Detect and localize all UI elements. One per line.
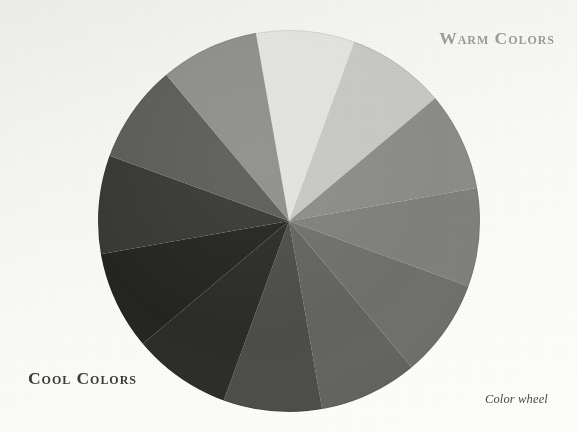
- figure-caption: Color wheel: [485, 392, 548, 407]
- color-wheel-figure: Warm Colors Cool Colors Color wheel: [0, 0, 577, 432]
- cool-colors-label: Cool Colors: [28, 368, 137, 389]
- warm-colors-label: Warm Colors: [439, 28, 555, 49]
- wheel-shading-overlay: [98, 30, 480, 412]
